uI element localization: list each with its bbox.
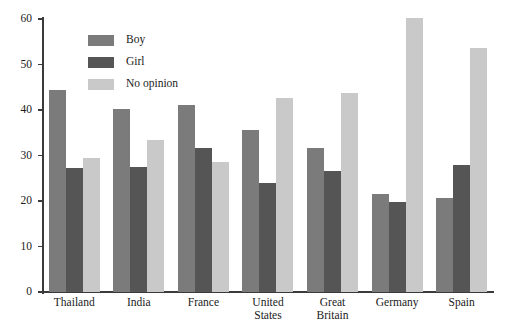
y-tick-label: 40 (6, 104, 32, 116)
legend-swatch-boy (88, 35, 114, 46)
bar-group: Great Britain (300, 19, 365, 292)
legend-item-girl[interactable]: Girl (88, 53, 178, 71)
bar-boy[interactable] (113, 109, 130, 292)
y-tick-label: 20 (6, 195, 32, 207)
bar-no-opinion[interactable] (406, 18, 423, 292)
bar-group: France (171, 19, 236, 292)
legend-label-boy: Boy (126, 34, 145, 46)
bar-no-opinion[interactable] (276, 98, 293, 292)
bar-boy[interactable] (242, 130, 259, 292)
x-tick-label: Spain (417, 296, 506, 309)
bar-girl[interactable] (324, 171, 341, 292)
bar-girl[interactable] (66, 168, 83, 292)
legend-label-girl: Girl (126, 56, 145, 68)
legend-swatch-no-opinion (88, 79, 114, 90)
bar-no-opinion[interactable] (341, 93, 358, 292)
bar-group: Spain (429, 19, 494, 292)
bar-girl[interactable] (389, 202, 406, 292)
legend-label-no-opinion: No opinion (126, 78, 178, 90)
legend: Boy Girl No opinion (88, 31, 178, 97)
bar-boy[interactable] (372, 194, 389, 292)
bar-group-bars (171, 19, 236, 292)
y-tick-label: 60 (6, 13, 32, 25)
bar-no-opinion[interactable] (470, 48, 487, 292)
bar-boy[interactable] (307, 148, 324, 292)
y-tick-label: 30 (6, 150, 32, 162)
bar-group: United States (236, 19, 301, 292)
bar-boy[interactable] (436, 198, 453, 292)
bar-no-opinion[interactable] (212, 162, 229, 292)
legend-item-no-opinion[interactable]: No opinion (88, 75, 178, 93)
bar-girl[interactable] (195, 148, 212, 292)
y-tick-label: 0 (6, 286, 32, 298)
bar-boy[interactable] (49, 90, 66, 292)
y-tick-label: 10 (6, 241, 32, 253)
y-tick-label: 50 (6, 59, 32, 71)
bar-no-opinion[interactable] (147, 140, 164, 292)
bar-group-bars (236, 19, 301, 292)
bar-girl[interactable] (453, 165, 470, 292)
bar-group-bars (300, 19, 365, 292)
bar-chart: 0102030405060 ThailandIndiaFranceUnited … (0, 0, 506, 333)
legend-swatch-girl (88, 57, 114, 68)
bar-boy[interactable] (178, 105, 195, 292)
bar-girl[interactable] (130, 167, 147, 292)
bar-group: Germany (365, 19, 430, 292)
bar-group-bars (365, 19, 430, 292)
bar-group-bars (429, 19, 494, 292)
bar-no-opinion[interactable] (83, 158, 100, 292)
legend-item-boy[interactable]: Boy (88, 31, 178, 49)
bar-girl[interactable] (259, 183, 276, 292)
